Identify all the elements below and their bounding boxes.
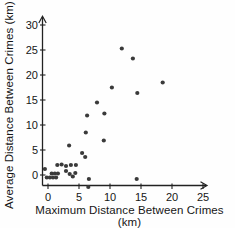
y-tick-label: 0	[32, 169, 38, 181]
data-point	[43, 167, 47, 171]
data-point	[54, 175, 58, 179]
data-point	[135, 177, 139, 181]
data-point	[135, 91, 139, 95]
data-point	[84, 130, 88, 134]
y-tick-label: 20	[26, 69, 38, 81]
data-point	[55, 163, 59, 167]
data-point	[102, 138, 106, 142]
data-point	[69, 163, 73, 167]
x-tick-label: 0	[45, 191, 51, 203]
x-tick-label: 15	[135, 191, 147, 203]
data-point	[64, 169, 68, 173]
data-point	[71, 174, 75, 178]
data-point	[80, 151, 84, 155]
x-tick-label: 5	[76, 191, 82, 203]
x-axis-title: Maximum Distance Between Crimes (km)	[24, 204, 235, 228]
scatter-plot-figure: Average Distance Between Crimes (km) 051…	[0, 0, 235, 228]
data-point	[86, 185, 90, 189]
x-tick-label: 10	[104, 191, 116, 203]
x-tick-label: 25	[197, 191, 209, 203]
data-point	[64, 164, 68, 168]
data-point	[131, 56, 135, 60]
data-point	[56, 171, 60, 175]
data-point	[85, 113, 89, 117]
x-tick-label: 20	[166, 191, 178, 203]
data-point	[110, 85, 114, 89]
data-point	[83, 155, 87, 159]
data-point	[95, 100, 99, 104]
data-point	[74, 163, 78, 167]
data-point	[102, 111, 106, 115]
y-tick-label: 15	[26, 94, 38, 106]
data-point	[161, 80, 165, 84]
y-tick-label: 30	[26, 19, 38, 31]
data-point	[87, 177, 91, 181]
data-point	[73, 171, 77, 175]
y-tick-label: 10	[26, 119, 38, 131]
data-point	[67, 143, 71, 147]
y-tick-label: 25	[26, 44, 38, 56]
data-point	[120, 46, 124, 50]
y-tick-label: 5	[32, 144, 38, 156]
data-point	[60, 162, 64, 166]
